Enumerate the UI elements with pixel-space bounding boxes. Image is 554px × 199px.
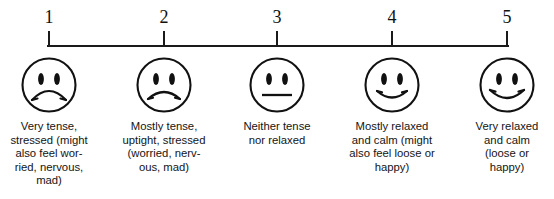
- scale-number-4: 4: [372, 6, 412, 28]
- axis-tick-1: [48, 31, 50, 47]
- scale-number-2: 2: [144, 6, 184, 28]
- scale-description-5: Very relaxed and calm (loose or happy): [453, 120, 554, 174]
- scale-description-1: Very tense, stressed (might also feel wo…: [0, 120, 103, 188]
- scale-description-2: Mostly tense, uptight, stressed (worried…: [110, 120, 218, 174]
- axis-line: [47, 45, 509, 47]
- axis-tick-3: [276, 31, 278, 47]
- smiling-face-icon: [478, 56, 536, 114]
- slightly-smiling-face-icon: [363, 56, 421, 114]
- slightly-frowning-face-icon: [135, 56, 193, 114]
- scale-description-4: Mostly relaxed and calm (might also feel…: [338, 120, 446, 174]
- scale-number-5: 5: [487, 6, 527, 28]
- faces-row: [0, 56, 554, 114]
- scale-axis: [0, 28, 554, 50]
- rating-scale-figure: 1 2 3 4 5: [0, 0, 554, 199]
- scale-number-3: 3: [257, 6, 297, 28]
- scale-description-3: Neither tense nor relaxed: [223, 120, 331, 147]
- axis-tick-4: [391, 31, 393, 47]
- scale-number-1: 1: [29, 6, 69, 28]
- axis-tick-5: [506, 31, 508, 47]
- scale-descriptions-row: Very tense, stressed (might also feel wo…: [0, 120, 554, 199]
- frowning-face-icon: [20, 56, 78, 114]
- neutral-face-icon: [248, 56, 306, 114]
- scale-numbers-row: 1 2 3 4 5: [0, 6, 554, 28]
- axis-tick-2: [163, 31, 165, 47]
